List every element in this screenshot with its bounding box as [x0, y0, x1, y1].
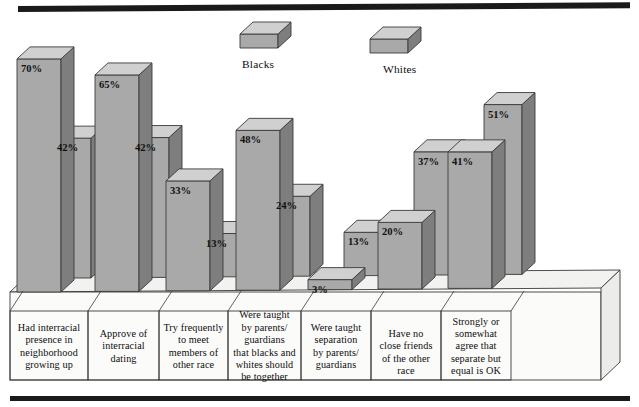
chart-bars	[17, 47, 535, 292]
chart-canvas	[0, 0, 639, 407]
legend-swatches	[240, 22, 421, 53]
chart-figure: BlacksWhites Had interracialpresence inn…	[0, 0, 639, 407]
